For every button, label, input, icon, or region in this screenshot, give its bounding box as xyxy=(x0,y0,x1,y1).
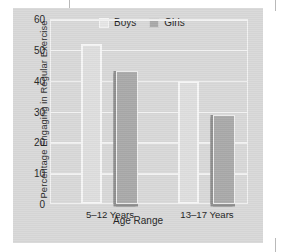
bar-girls-5-12 xyxy=(116,71,138,204)
bar-girls-13-17 xyxy=(213,115,235,204)
bar-boys-5-12 xyxy=(81,44,102,204)
gridline-60 xyxy=(50,19,248,21)
crop-mark-top-right xyxy=(275,0,276,11)
chart-screenshot: Percentage Engaging in Regular Exercise … xyxy=(0,0,284,252)
chart-figure-panel: Percentage Engaging in Regular Exercise … xyxy=(13,8,263,243)
y-tick-label-50: 50 xyxy=(34,44,45,55)
gridline-50 xyxy=(50,50,248,52)
plot-area: 60 50 40 30 20 10 0 5–12 Years 13–17 Yea… xyxy=(50,19,248,204)
y-tick-label-60: 60 xyxy=(34,14,45,25)
y-tick-label-40: 40 xyxy=(34,75,45,86)
gridline-40 xyxy=(50,81,248,83)
y-tick-label-20: 20 xyxy=(34,137,45,148)
bar-boys-13-17 xyxy=(178,81,199,204)
y-tick-label-0: 0 xyxy=(39,199,45,210)
crop-mark-bottom-right xyxy=(275,238,276,252)
gridline-30 xyxy=(50,112,248,114)
y-tick-label-10: 10 xyxy=(34,168,45,179)
y-tick-label-30: 30 xyxy=(34,106,45,117)
x-axis-title: Age Range xyxy=(13,215,263,226)
